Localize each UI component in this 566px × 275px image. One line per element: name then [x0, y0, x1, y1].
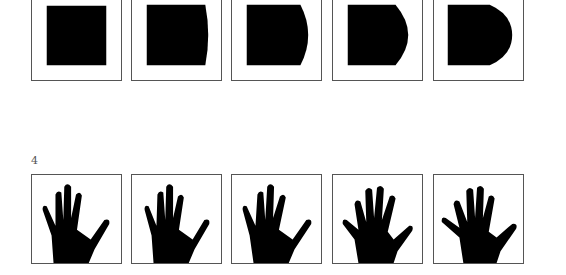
larger-bulge-shape-icon — [333, 0, 422, 80]
hand-icon — [434, 175, 523, 263]
hand-icon — [32, 175, 121, 263]
frame-hand-2 — [131, 174, 222, 264]
frame-hand-4 — [332, 174, 423, 264]
frame-shape-2 — [131, 0, 222, 81]
hand-icon — [333, 175, 422, 263]
frame-hand-1 — [31, 174, 122, 264]
row-label: 4 — [31, 154, 38, 167]
frame-shape-4 — [332, 0, 423, 81]
frame-shape-1 — [31, 0, 122, 81]
slight-bulge-shape-icon — [132, 0, 221, 80]
bulge-shape-icon — [232, 0, 321, 80]
square-shape-icon — [32, 0, 121, 80]
d-shape-icon — [434, 0, 523, 80]
frame-shape-3 — [231, 0, 322, 81]
hand-icon — [232, 175, 321, 263]
frame-shape-5 — [433, 0, 524, 81]
frame-hand-5 — [433, 174, 524, 264]
hand-icon — [132, 175, 221, 263]
frame-hand-3 — [231, 174, 322, 264]
